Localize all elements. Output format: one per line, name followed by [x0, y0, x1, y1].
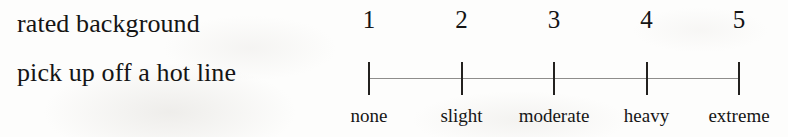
- scale-point-2-number: 2: [455, 6, 468, 34]
- item-prompt-line-1: rated background: [17, 11, 200, 37]
- item-prompt-line-2: pick up off a hot line: [17, 60, 236, 86]
- scale-point-2-label: slight: [440, 105, 482, 127]
- scale-point-5-number: 5: [733, 6, 746, 34]
- scale-point-1-tick-icon: [368, 62, 370, 95]
- scale-point-3-number: 3: [548, 6, 561, 34]
- scale-point-3-tick-icon: [553, 62, 555, 95]
- scale-point-2-tick-icon: [461, 62, 463, 95]
- scale-point-3-label: moderate: [519, 105, 590, 127]
- rating-scale: 1 none 2 slight 3 moderate 4 heavy 5 ext…: [369, 0, 739, 137]
- scale-point-5-label: extreme: [708, 105, 769, 127]
- scale-point-1-number: 1: [363, 6, 376, 34]
- scale-point-4-number: 4: [640, 6, 653, 34]
- scale-point-1-label: none: [351, 105, 388, 127]
- scale-point-5-tick-icon: [738, 62, 740, 95]
- scale-point-4-label: heavy: [624, 105, 669, 127]
- scale-point-4-tick-icon: [646, 62, 648, 95]
